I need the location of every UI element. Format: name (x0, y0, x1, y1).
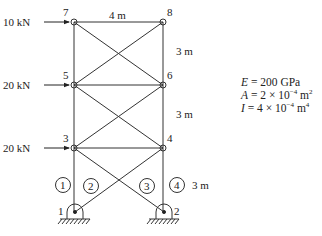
load-label-node7: 10 kN (3, 16, 30, 28)
member-label-2: 2 (88, 180, 94, 192)
property-E: E = 200 GPa (241, 76, 313, 89)
material-properties: E = 200 GPa A = 2 × 10−4 m2 I = 4 × 10−4… (241, 76, 313, 115)
dim-height-lower: 3 m (192, 179, 209, 191)
node-label-3: 3 (63, 132, 69, 144)
dim-height-upper: 3 m (176, 45, 193, 57)
node-label-6: 6 (167, 69, 173, 81)
member-label-3: 3 (144, 180, 150, 192)
node-label-1: 1 (58, 205, 64, 217)
dim-width-top: 4 m (109, 9, 126, 21)
member-label-4: 4 (174, 179, 180, 191)
load-label-node3: 20 kN (3, 142, 30, 154)
property-I: I = 4 × 10−4 m4 (241, 102, 313, 115)
property-A: A = 2 × 10−4 m2 (241, 89, 313, 102)
frame-diagram: 10 kN 20 kN 20 kN 7 8 5 6 3 4 1 2 4 m 3 … (0, 0, 322, 236)
ground-hatch-icon (147, 219, 179, 224)
node-label-7: 7 (63, 6, 69, 18)
dim-height-middle: 3 m (176, 108, 193, 120)
node-label-2: 2 (174, 205, 180, 217)
node-label-5: 5 (63, 69, 69, 81)
node-label-4: 4 (167, 132, 173, 144)
node-label-8: 8 (167, 6, 173, 18)
load-label-node5: 20 kN (3, 79, 30, 91)
member-label-1: 1 (60, 179, 66, 191)
load-arrows (44, 22, 69, 148)
ground-hatch-icon (58, 219, 90, 224)
